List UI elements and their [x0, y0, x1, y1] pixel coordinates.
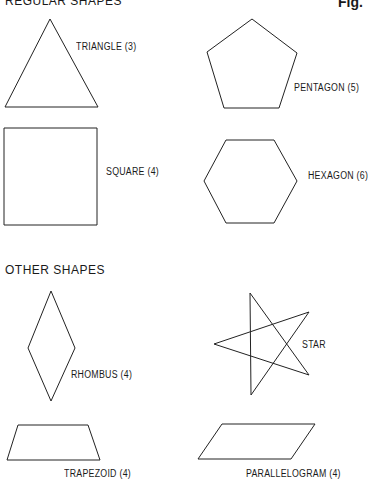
other-shapes-heading: OTHER SHAPES [5, 263, 105, 277]
rhombus-label: RHOMBUS (4) [71, 369, 132, 380]
rhombus-shape [28, 291, 75, 401]
parallelogram-label: PARALLELOGRAM (4) [246, 468, 341, 479]
hexagon-label: HEXAGON (6) [308, 170, 368, 181]
square-label: SQUARE (4) [106, 166, 159, 177]
pentagon-label: PENTAGON (5) [294, 82, 359, 93]
pentagon-shape [207, 19, 297, 108]
trapezoid-label: TRAPEZOID (4) [64, 468, 131, 479]
parallelogram-shape [198, 424, 315, 459]
trapezoid-shape [7, 425, 100, 460]
star-label: STAR [302, 339, 326, 350]
triangle-label: TRIANGLE (3) [76, 41, 136, 52]
hexagon-shape [204, 140, 297, 223]
square-shape [4, 128, 97, 225]
triangle-shape [5, 19, 98, 107]
star-shape [214, 293, 309, 395]
